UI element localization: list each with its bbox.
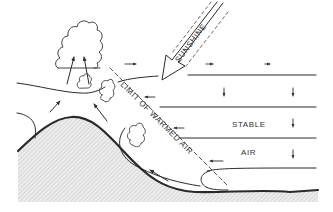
air-flow-arrow-icon <box>94 104 107 121</box>
air-flow-arrow-icon <box>50 101 60 112</box>
limit-label: LIMIT OF WARMED AIR <box>119 80 195 156</box>
cloud-icon <box>77 74 91 88</box>
air-flow-arrow-icon <box>84 57 89 84</box>
cumulus-cloud-icon <box>56 21 103 68</box>
updraft-arrows <box>67 57 89 84</box>
cloud-icon <box>99 79 115 101</box>
air-label: AIR <box>241 148 256 157</box>
stable-label: STABLE <box>232 120 266 129</box>
air-flow-arrow-icon <box>67 57 74 84</box>
cloud-icon <box>127 123 145 147</box>
valley-wind-diagram: SUNSHINE LIMIT OF WARMED AIR STABLE AIR <box>0 0 333 212</box>
sunshine-arrow-icon: SUNSHINE <box>162 2 228 80</box>
